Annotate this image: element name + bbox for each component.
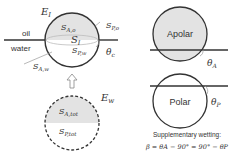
wetting-diagram: EI oil water SA,o SP,o SI SP,w SA,w θc E…: [0, 0, 239, 158]
supplementary-caption: Supplementary wetting:: [153, 131, 221, 139]
polar-label: Polar: [169, 97, 190, 107]
up-hollow-arrow-icon: [67, 74, 77, 88]
s-aw-label: SA,w: [33, 62, 49, 72]
energy-interface-label: EI: [40, 6, 51, 19]
water-label: water: [10, 44, 31, 53]
supplementary-equation: β = θA − 90° = 90° − θP: [145, 143, 229, 151]
theta-a-label: θA: [207, 58, 217, 69]
interface-particle: [4, 13, 118, 67]
energy-water-label: Ew: [100, 92, 114, 105]
water-particle: [45, 96, 99, 150]
theta-c-label: θc: [106, 47, 115, 58]
theta-p-label: θP: [211, 97, 221, 108]
s-po-label: SP,o: [106, 21, 120, 31]
oil-label: oil: [22, 29, 30, 38]
apolar-label: Apolar: [167, 29, 193, 39]
